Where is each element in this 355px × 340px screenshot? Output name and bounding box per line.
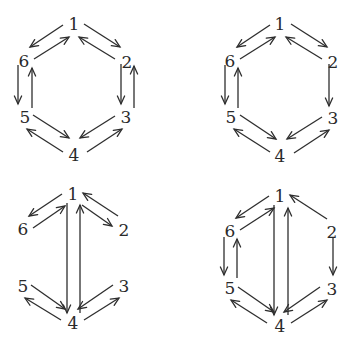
node-label-1: 1 <box>69 14 80 34</box>
node-label-2: 2 <box>327 222 338 242</box>
arrow-5-to-6 <box>234 68 241 108</box>
arrow-shaft <box>29 194 62 216</box>
panel-bottom-left: 123456 <box>18 184 130 333</box>
arrowhead-icon <box>320 130 329 137</box>
node-label-4: 4 <box>275 146 286 166</box>
arrowhead-icon <box>79 37 88 44</box>
arrowhead-icon <box>60 131 69 138</box>
node-label-1: 1 <box>68 184 79 204</box>
arrow-4-to-1 <box>76 205 83 313</box>
graph-figure: 123456 123456 123456 123456 <box>0 0 355 340</box>
arrow-shaft <box>240 115 276 139</box>
node-label-2: 2 <box>122 52 133 72</box>
arrow-shaft <box>80 116 115 138</box>
node-label-6: 6 <box>18 219 29 239</box>
arrowhead-icon <box>111 40 120 47</box>
arrowhead-icon <box>29 209 38 216</box>
arrow-5-to-6 <box>233 239 240 278</box>
arrowhead-icon <box>60 37 69 44</box>
arrow-2-to-3 <box>329 238 336 275</box>
arrow-shaft <box>294 130 329 153</box>
arrow-shaft <box>234 129 270 152</box>
arrowhead-icon <box>110 298 119 305</box>
node-label-1: 1 <box>275 14 286 34</box>
arrow-shaft <box>290 195 327 219</box>
arrowhead-icon <box>83 193 92 200</box>
arrow-6-to-1 <box>240 37 275 59</box>
node-label-3: 3 <box>327 279 338 299</box>
arrowhead-icon <box>318 40 327 47</box>
arrow-1-to-2 <box>82 205 112 226</box>
node-label-2: 2 <box>328 52 339 72</box>
arrowhead-icon <box>286 37 295 44</box>
arrow-6-to-5 <box>220 237 227 275</box>
node-label-6: 6 <box>225 51 236 71</box>
arrow-4-to-5 <box>234 129 270 152</box>
node-label-3: 3 <box>328 108 339 128</box>
arrow-5-to-6 <box>28 68 35 108</box>
node-label-4: 4 <box>69 145 80 165</box>
arrow-shaft <box>87 129 122 152</box>
arrow-2-to-1 <box>83 193 118 216</box>
node-label-3: 3 <box>119 276 130 296</box>
arrowhead-icon <box>237 40 246 47</box>
node-label-2: 2 <box>119 220 130 240</box>
arrow-5-to-4 <box>240 115 276 139</box>
node-label-6: 6 <box>19 51 30 71</box>
arrow-3-to-4 <box>287 117 322 139</box>
arrow-4-to-1 <box>284 208 291 315</box>
node-label-5: 5 <box>20 107 31 127</box>
node-label-3: 3 <box>121 107 132 127</box>
panel-bottom-right: 123456 <box>220 186 337 336</box>
arrow-shaft <box>27 129 63 152</box>
arrow-4-to-5 <box>25 298 61 320</box>
node-label-4: 4 <box>68 313 79 333</box>
arrow-shaft <box>240 37 275 59</box>
arrow-1-to-4 <box>63 203 70 313</box>
arrowhead-icon <box>318 300 327 307</box>
arrow-6-to-1 <box>33 206 65 228</box>
arrowhead-icon <box>30 40 39 47</box>
arrow-shaft <box>33 115 69 138</box>
node-label-5: 5 <box>226 107 237 127</box>
arrow-shaft <box>83 193 118 216</box>
arrow-5-to-4 <box>33 115 69 138</box>
arrowhead-icon <box>231 300 240 307</box>
arrowhead-icon <box>236 211 245 218</box>
arrow-2-to-1 <box>290 195 327 219</box>
arrow-shaft <box>33 206 65 228</box>
arrowhead-icon <box>234 129 243 136</box>
arrowhead-icon <box>266 37 275 44</box>
arrow-3-to-4 <box>80 116 115 138</box>
node-label-5: 5 <box>225 278 236 298</box>
arrow-1-to-6 <box>29 194 62 216</box>
arrow-shaft <box>287 117 322 139</box>
arrowhead-icon <box>290 195 299 202</box>
arrow-shaft <box>25 298 61 320</box>
arrowhead-icon <box>25 298 34 305</box>
arrow-4-to-3 <box>87 129 122 152</box>
node-label-6: 6 <box>225 221 236 241</box>
arrowhead-icon <box>113 129 122 136</box>
arrowhead-icon <box>80 131 89 138</box>
arrow-4-to-5 <box>27 129 63 152</box>
panel-top-left: 123456 <box>14 14 137 165</box>
arrow-4-to-3 <box>294 130 329 153</box>
arrowhead-icon <box>267 132 276 139</box>
arrow-3-to-2 <box>130 66 137 108</box>
node-label-5: 5 <box>18 276 29 296</box>
node-label-4: 4 <box>275 316 286 336</box>
arrow-1-to-4 <box>270 205 277 315</box>
panel-top-right: 123456 <box>221 14 338 166</box>
arrow-shaft <box>82 205 112 226</box>
arrowhead-icon <box>265 208 274 215</box>
arrowhead-icon <box>27 129 36 136</box>
arrowhead-icon <box>287 132 296 139</box>
node-label-1: 1 <box>275 186 286 206</box>
